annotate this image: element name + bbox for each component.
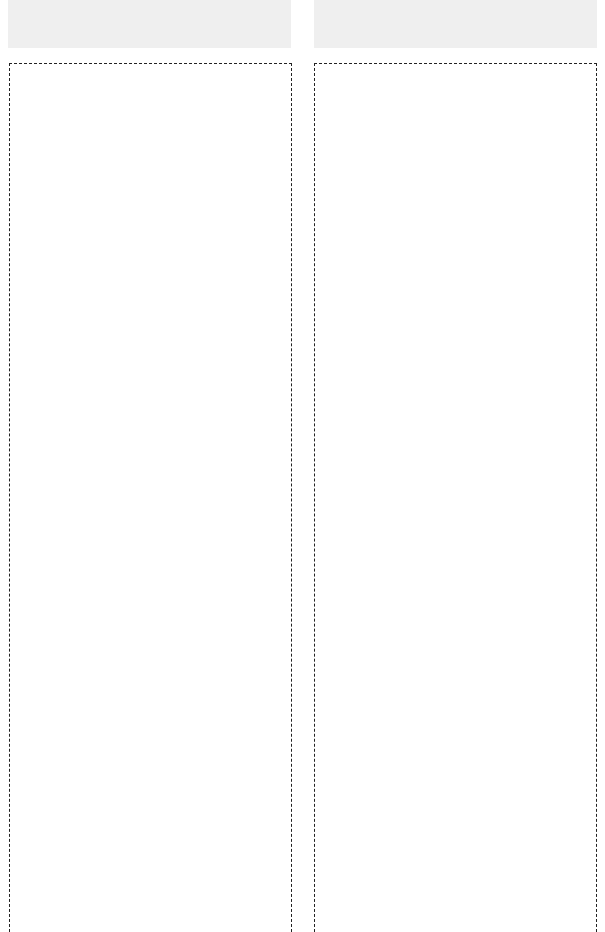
right-content-box [314,63,597,932]
left-header-panel [8,0,291,48]
right-header-panel [314,0,597,48]
left-content-box [9,63,292,932]
